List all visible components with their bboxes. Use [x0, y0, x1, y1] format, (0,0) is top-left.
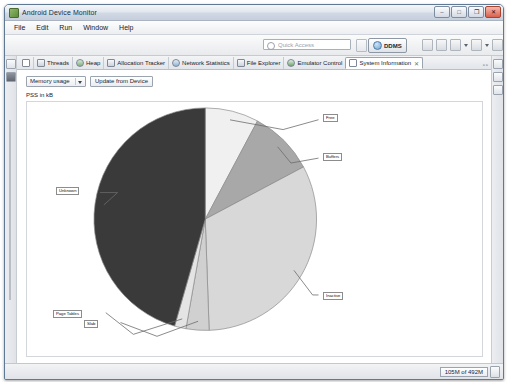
pie-slice-group [94, 108, 317, 330]
link-icon[interactable] [492, 39, 503, 51]
debug-icon[interactable] [471, 39, 482, 51]
tab-threads-label: Threads [47, 60, 69, 66]
status-bar: 105M of 492M [5, 363, 503, 379]
tab-file-explorer-label: File Explorer [247, 60, 281, 66]
sysinfo-icon [349, 59, 357, 67]
tab-system-information[interactable]: System Information ✕ [345, 57, 423, 69]
pie-svg [27, 102, 482, 356]
chevron-down-icon [78, 81, 82, 84]
emulator-icon [287, 59, 295, 67]
menu-window[interactable]: Window [78, 23, 113, 32]
restore-view-icon[interactable] [493, 59, 503, 69]
trash-icon[interactable] [490, 366, 500, 378]
close-button[interactable]: ✕ [485, 6, 501, 18]
perspective-ddms-button[interactable]: DDMS [368, 38, 407, 53]
window-controls: – □ ❐ ✕ [434, 6, 501, 18]
pie-label-inactive: Inactive [323, 292, 343, 300]
window-title: Android Device Monitor [22, 9, 97, 16]
menu-file[interactable]: File [9, 23, 30, 32]
logcat-view-icon[interactable] [493, 72, 503, 82]
ddms-icon [373, 41, 382, 50]
menu-run[interactable]: Run [54, 23, 77, 32]
view-toolbar: Memory usage Update from Device [17, 70, 491, 89]
heap-icon [76, 59, 84, 67]
units-label: PSS in kB [17, 89, 491, 98]
quick-access-placeholder: Quick Access [278, 42, 314, 48]
tab-emulator-control-label: Emulator Control [297, 60, 342, 66]
console-view-icon[interactable] [493, 85, 503, 95]
pie-label-page-tables: Page Tables [53, 310, 82, 318]
system-information-view: Memory usage Update from Device PSS in k… [17, 70, 491, 363]
tab-overflow-icon[interactable]: ▫▫ [483, 62, 489, 68]
tab-allocation-tracker-label: Allocation Tracker [117, 60, 165, 66]
minimize-button[interactable]: – [434, 6, 450, 18]
update-from-device-button[interactable]: Update from Device [90, 76, 153, 87]
network-icon [172, 59, 180, 67]
pie-plot-area: Free Buffers Inactive Slab Page Tables U… [27, 102, 482, 356]
rail-divider [9, 120, 11, 300]
tab-emulator-control[interactable]: Emulator Control [283, 57, 345, 69]
quick-access-input[interactable]: Quick Access [263, 39, 351, 50]
menu-edit[interactable]: Edit [31, 23, 53, 32]
memory-usage-pie-chart: Free Buffers Inactive Slab Page Tables U… [26, 101, 483, 357]
main-toolbar: Quick Access DDMS [5, 35, 503, 56]
tab-system-information-label: System Information [359, 60, 411, 66]
perspective-ddms-label: DDMS [384, 43, 402, 49]
maximize-button[interactable]: □ [451, 6, 467, 18]
tab-threads[interactable]: Threads [33, 57, 72, 69]
title-bar[interactable]: Android Device Monitor – □ ❐ ✕ [5, 5, 503, 21]
caret-down-icon[interactable] [485, 44, 489, 47]
view-tab-strip: Threads Heap Allocation Tracker Network … [17, 56, 491, 70]
threads-icon [37, 59, 45, 67]
search-icon [267, 42, 275, 50]
right-rail [491, 56, 503, 363]
select-divider [75, 78, 76, 85]
application-window: Android Device Monitor – □ ❐ ✕ File Edit… [4, 4, 504, 380]
editor-column: Threads Heap Allocation Tracker Network … [17, 56, 491, 363]
caret-down-icon[interactable] [464, 44, 468, 47]
metric-select-value: Memory usage [30, 78, 70, 84]
folder-icon [237, 59, 245, 67]
heap-status-label: 105M of 492M [445, 369, 483, 375]
window-body: Threads Heap Allocation Tracker Network … [5, 56, 503, 363]
tab-network-statistics-label: Network Statistics [182, 60, 230, 66]
minimize-view-icon[interactable] [6, 59, 16, 69]
menu-bar: File Edit Run Window Help [5, 21, 503, 35]
devices-view-icon[interactable] [6, 72, 16, 82]
lock-icon[interactable] [422, 39, 433, 51]
pie-label-unknown: Unknown [56, 187, 79, 195]
save-icon[interactable] [436, 39, 447, 51]
android-icon [9, 8, 19, 18]
left-rail [5, 56, 17, 363]
desktop-background: Android Device Monitor – □ ❐ ✕ File Edit… [0, 0, 507, 382]
run-icon[interactable] [450, 39, 461, 51]
tab-heap-label: Heap [86, 60, 100, 66]
tab-network-statistics[interactable]: Network Statistics [168, 57, 233, 69]
heap-status-indicator[interactable]: 105M of 492M [440, 367, 488, 377]
pie-label-buffers: Buffers [323, 153, 342, 161]
pie-label-slab: Slab [84, 320, 98, 328]
tab-heap[interactable]: Heap [72, 57, 103, 69]
perspective-open-button[interactable] [356, 39, 367, 52]
menu-help[interactable]: Help [114, 23, 138, 32]
hash-icon [22, 59, 30, 67]
tab-overflow-marker[interactable] [19, 57, 33, 69]
pie-label-free: Free [323, 114, 338, 122]
tab-file-explorer[interactable]: File Explorer [233, 57, 284, 69]
metric-select[interactable]: Memory usage [26, 76, 86, 87]
update-from-device-label: Update from Device [95, 78, 148, 84]
tab-allocation-tracker[interactable]: Allocation Tracker [103, 57, 168, 69]
allocation-icon [107, 59, 115, 67]
toolbar-icon-group [422, 39, 504, 51]
tab-close-icon[interactable]: ✕ [414, 60, 419, 67]
restore-button[interactable]: ❐ [468, 6, 484, 18]
